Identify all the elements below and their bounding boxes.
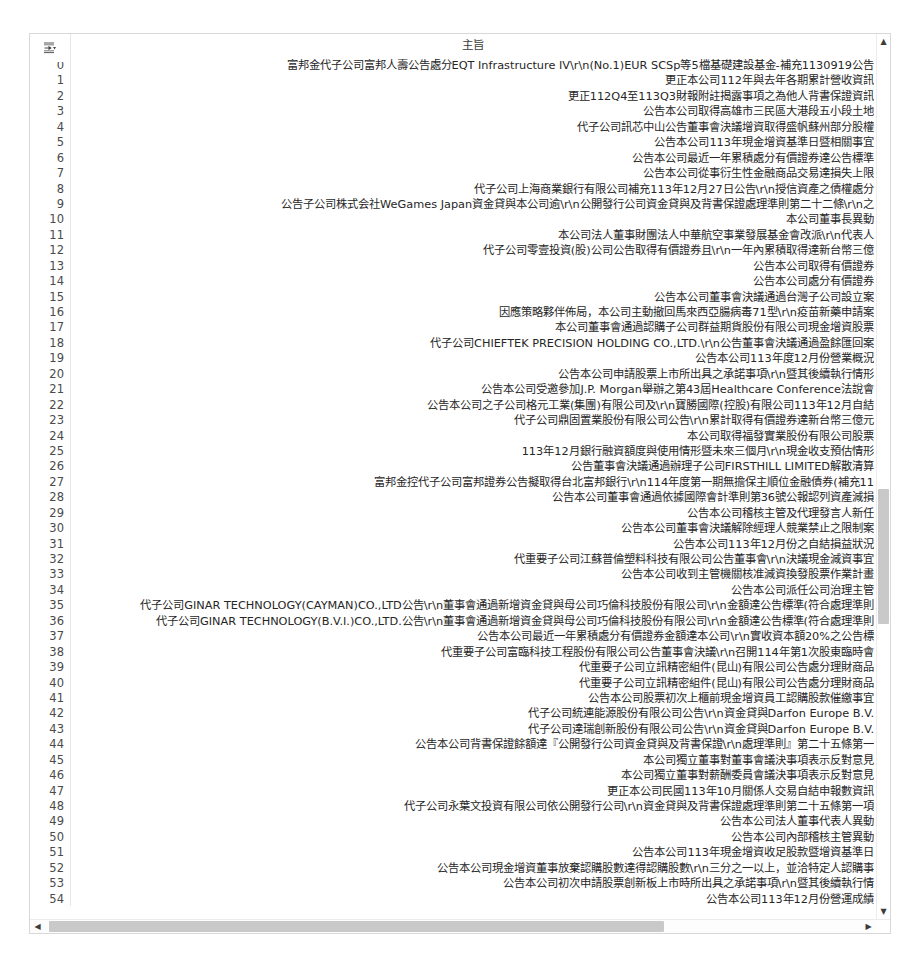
cell-subject[interactable]: 公告本公司申請股票上市所出具之承諾事項\r\n暨其後續執行情形 bbox=[74, 367, 874, 382]
table-row[interactable]: 29公告本公司稽核主管及代理發言人新任 bbox=[30, 506, 876, 521]
table-row[interactable]: 33公告本公司收到主管機關核准減資換發股票作業計畫 bbox=[30, 567, 876, 582]
cell-subject[interactable]: 公告董事會決議通過辦理子公司FIRSTHILL LIMITED解散清算 bbox=[74, 459, 874, 474]
table-row[interactable]: 25113年12月銀行融資額度與使用情形暨未來三個月\r\n現金收支預估情形 bbox=[30, 444, 876, 459]
scroll-down-arrow-icon[interactable]: ▼ bbox=[877, 905, 890, 918]
table-row[interactable]: 22公告本公司之子公司格元工業(集團)有限公司及\r\n寶勝國際(控股)有限公司… bbox=[30, 398, 876, 413]
cell-subject[interactable]: 公告本公司派任公司治理主管 bbox=[74, 583, 874, 598]
table-row[interactable]: 52公告本公司現金增資董事放棄認購股數達得認購股數\r\n三分之一以上，並洽特定… bbox=[30, 861, 876, 876]
table-row[interactable]: 24本公司取得福發實業股份有限公司股票 bbox=[30, 429, 876, 444]
cell-subject[interactable]: 代子公司訊芯中山公告董事會決議增資取得盛帆蘇州部分股權 bbox=[74, 120, 874, 135]
table-row[interactable]: 3公告本公司取得高雄市三民區大港段五小段土地 bbox=[30, 104, 876, 119]
table-row[interactable]: 7公告本公司從事衍生性金融商品交易達損失上限 bbox=[30, 166, 876, 181]
table-row[interactable]: 21公告本公司受邀參加J.P. Morgan舉辦之第43屆Healthcare … bbox=[30, 382, 876, 397]
cell-subject[interactable]: 本公司董事會通過認購子公司群益期貨股份有限公司現金增資股票 bbox=[74, 320, 874, 335]
table-row[interactable]: 19公告本公司113年度12月份營業概況 bbox=[30, 351, 876, 366]
table-row[interactable]: 54公告本公司113年12月份營運成績 bbox=[30, 892, 876, 907]
cell-subject[interactable]: 公告本公司初次申請股票創新板上市時所出具之承諾事項\r\n暨其後續執行情 bbox=[74, 876, 874, 891]
cell-subject[interactable]: 更正本公司112年與去年各期累計營收資訊 bbox=[74, 73, 874, 88]
table-row[interactable]: 9公告子公司株式会社WeGames Japan資金貸與本公司逾\r\n公開發行公… bbox=[30, 197, 876, 212]
cell-subject[interactable]: 代重要子公司富臨科技工程股份有限公司公告董事會決議\r\n召開114年第1次股東… bbox=[74, 645, 874, 660]
table-row[interactable]: 41公告本公司股票初次上櫃前現金增資員工認購股款催繳事宜 bbox=[30, 691, 876, 706]
cell-subject[interactable]: 公告本公司董事會決議解除經理人競業禁止之限制案 bbox=[74, 521, 874, 536]
cell-subject[interactable]: 代子公司統連能源股份有限公司公告\r\n資金貸與Darfon Europe B.… bbox=[74, 706, 874, 721]
cell-subject[interactable]: 公告本公司從事衍生性金融商品交易達損失上限 bbox=[74, 166, 874, 181]
table-row[interactable]: 46本公司獨立董事對薪酬委員會議決事項表示反對意見 bbox=[30, 768, 876, 783]
cell-subject[interactable]: 公告本公司之子公司格元工業(集團)有限公司及\r\n寶勝國際(控股)有限公司11… bbox=[74, 398, 874, 413]
scroll-up-arrow-icon[interactable]: ▲ bbox=[877, 35, 890, 48]
cell-subject[interactable]: 代重要子公司立訊精密組件(昆山)有限公司公告處分理財商品 bbox=[74, 676, 874, 691]
cell-subject[interactable]: 公告本公司現金增資董事放棄認購股數達得認購股數\r\n三分之一以上，並洽特定人認… bbox=[74, 861, 874, 876]
cell-subject[interactable]: 更正112Q4至113Q3財報附註揭露事項之為他人背書保證資訊 bbox=[74, 89, 874, 104]
table-row[interactable]: 6公告本公司最近一年累積處分有價證券達公告標準 bbox=[30, 151, 876, 166]
table-row[interactable]: 14公告本公司處分有價證券 bbox=[30, 274, 876, 289]
table-row[interactable]: 23代子公司鼎固置業股份有限公司公告\r\n累計取得有價證券達新台幣三億元 bbox=[30, 413, 876, 428]
cell-subject[interactable]: 113年12月銀行融資額度與使用情形暨未來三個月\r\n現金收支預估情形 bbox=[74, 444, 874, 459]
cell-subject[interactable]: 公告本公司董事會通過依據國際會計準則第36號公報認列資產減損 bbox=[74, 490, 874, 505]
cell-subject[interactable]: 公告子公司株式会社WeGames Japan資金貸與本公司逾\r\n公開發行公司… bbox=[74, 197, 874, 212]
table-row[interactable]: 43代子公司達瑞創新股份有限公司公告\r\n資金貸與Darfon Europe … bbox=[30, 722, 876, 737]
table-row[interactable]: 36代子公司GINAR TECHNOLOGY(B.V.I.)CO.,LTD.公告… bbox=[30, 614, 876, 629]
table-row[interactable]: 50公告本公司內部稽核主管異動 bbox=[30, 830, 876, 845]
table-row[interactable]: 47更正本公司民國113年10月關係人交易自結申報數資訊 bbox=[30, 784, 876, 799]
cell-subject[interactable]: 代重要子公司立訊精密組件(昆山)有限公司公告處分理財商品 bbox=[74, 660, 874, 675]
table-row[interactable]: 5公告本公司113年現金增資基準日暨相關事宜 bbox=[30, 135, 876, 150]
table-row[interactable]: 0富邦金代子公司富邦人壽公告處分EQT Infrastructure IV\r\… bbox=[30, 58, 876, 73]
cell-subject[interactable]: 公告本公司113年現金增資收足股款暨增資基準日 bbox=[74, 845, 874, 860]
cell-subject[interactable]: 公告本公司最近一年累積處分有價證券達公告標準 bbox=[74, 151, 874, 166]
table-row[interactable]: 31公告本公司113年12月份之自結損益狀況 bbox=[30, 537, 876, 552]
cell-subject[interactable]: 代子公司達瑞創新股份有限公司公告\r\n資金貸與Darfon Europe B.… bbox=[74, 722, 874, 737]
scroll-right-arrow-icon[interactable]: ▶ bbox=[862, 920, 875, 933]
column-header-subject[interactable]: 主旨 bbox=[70, 36, 876, 52]
cell-subject[interactable]: 代子公司鼎固置業股份有限公司公告\r\n累計取得有價證券達新台幣三億元 bbox=[74, 413, 874, 428]
table-row[interactable]: 30公告本公司董事會決議解除經理人競業禁止之限制案 bbox=[30, 521, 876, 536]
cell-subject[interactable]: 富邦金控代子公司富邦證券公告擬取得台北富邦銀行\r\n114年度第一期無擔保主順… bbox=[74, 475, 874, 490]
cell-subject[interactable]: 本公司董事長異動 bbox=[74, 212, 874, 227]
table-row[interactable]: 39代重要子公司立訊精密組件(昆山)有限公司公告處分理財商品 bbox=[30, 660, 876, 675]
table-row[interactable]: 16因應策略夥伴佈局，本公司主動撤回馬來西亞腸病毒71型\r\n疫苗新藥申請案 bbox=[30, 305, 876, 320]
expand-index-icon[interactable] bbox=[30, 34, 70, 62]
cell-subject[interactable]: 富邦金代子公司富邦人壽公告處分EQT Infrastructure IV\r\n… bbox=[74, 58, 874, 73]
table-row[interactable]: 44公告本公司背書保證餘額達『公開發行公司資金貸與及背書保證\r\n處理準則』第… bbox=[30, 737, 876, 752]
table-row[interactable]: 26公告董事會決議通過辦理子公司FIRSTHILL LIMITED解散清算 bbox=[30, 459, 876, 474]
table-row[interactable]: 1更正本公司112年與去年各期累計營收資訊 bbox=[30, 73, 876, 88]
table-row[interactable]: 38代重要子公司富臨科技工程股份有限公司公告董事會決議\r\n召開114年第1次… bbox=[30, 645, 876, 660]
table-row[interactable]: 48代子公司永葉文投資有限公司依公開發行公司\r\n資金貸與及背書保證處理準則第… bbox=[30, 799, 876, 814]
cell-subject[interactable]: 公告本公司處分有價證券 bbox=[74, 274, 874, 289]
cell-subject[interactable]: 代子公司CHIEFTEK PRECISION HOLDING CO.,LTD.\… bbox=[74, 336, 874, 351]
cell-subject[interactable]: 公告本公司收到主管機關核准減資換發股票作業計畫 bbox=[74, 567, 874, 582]
vertical-scrollbar[interactable]: ▲ ▼ bbox=[876, 34, 890, 919]
table-row[interactable]: 8代子公司上海商業銀行有限公司補充113年12月27日公告\r\n授信資產之債權… bbox=[30, 182, 876, 197]
cell-subject[interactable]: 因應策略夥伴佈局，本公司主動撤回馬來西亞腸病毒71型\r\n疫苗新藥申請案 bbox=[74, 305, 874, 320]
table-row[interactable]: 18代子公司CHIEFTEK PRECISION HOLDING CO.,LTD… bbox=[30, 336, 876, 351]
table-row[interactable]: 40代重要子公司立訊精密組件(昆山)有限公司公告處分理財商品 bbox=[30, 676, 876, 691]
table-row[interactable]: 53公告本公司初次申請股票創新板上市時所出具之承諾事項\r\n暨其後續執行情 bbox=[30, 876, 876, 891]
cell-subject[interactable]: 公告本公司背書保證餘額達『公開發行公司資金貸與及背書保證\r\n處理準則』第二十… bbox=[74, 737, 874, 752]
vertical-scrollbar-thumb[interactable] bbox=[878, 489, 889, 624]
table-row[interactable]: 2更正112Q4至113Q3財報附註揭露事項之為他人背書保證資訊 bbox=[30, 89, 876, 104]
cell-subject[interactable]: 更正本公司民國113年10月關係人交易自結申報數資訊 bbox=[74, 784, 874, 799]
cell-subject[interactable]: 本公司法人董事財團法人中華航空事業發展基金會改派\r\n代表人 bbox=[74, 228, 874, 243]
table-row[interactable]: 42代子公司統連能源股份有限公司公告\r\n資金貸與Darfon Europe … bbox=[30, 706, 876, 721]
table-row[interactable]: 34公告本公司派任公司治理主管 bbox=[30, 583, 876, 598]
table-row[interactable]: 32代重要子公司江蘇普倫塑料科技有限公司公告董事會\r\n決議現金減資事宜 bbox=[30, 552, 876, 567]
table-row[interactable]: 45本公司獨立董事對董事會議決事項表示反對意見 bbox=[30, 753, 876, 768]
cell-subject[interactable]: 公告本公司113年12月份營運成績 bbox=[74, 892, 874, 907]
table-row[interactable]: 11本公司法人董事財團法人中華航空事業發展基金會改派\r\n代表人 bbox=[30, 228, 876, 243]
cell-subject[interactable]: 代重要子公司江蘇普倫塑料科技有限公司公告董事會\r\n決議現金減資事宜 bbox=[74, 552, 874, 567]
table-row[interactable]: 37公告本公司最近一年累積處分有價證券金額達本公司\r\n實收資本額20%之公告… bbox=[30, 629, 876, 644]
table-row[interactable]: 17本公司董事會通過認購子公司群益期貨股份有限公司現金增資股票 bbox=[30, 320, 876, 335]
cell-subject[interactable]: 公告本公司股票初次上櫃前現金增資員工認購股款催繳事宜 bbox=[74, 691, 874, 706]
cell-subject[interactable]: 代子公司GINAR TECHNOLOGY(B.V.I.)CO.,LTD.公告\r… bbox=[74, 614, 874, 629]
table-row[interactable]: 15公告本公司董事會決議通過台灣子公司設立案 bbox=[30, 290, 876, 305]
table-row[interactable]: 4代子公司訊芯中山公告董事會決議增資取得盛帆蘇州部分股權 bbox=[30, 120, 876, 135]
cell-subject[interactable]: 公告本公司113年現金增資基準日暨相關事宜 bbox=[74, 135, 874, 150]
cell-subject[interactable]: 本公司取得福發實業股份有限公司股票 bbox=[74, 429, 874, 444]
table-row[interactable]: 28公告本公司董事會通過依據國際會計準則第36號公報認列資產減損 bbox=[30, 490, 876, 505]
table-row[interactable]: 10本公司董事長異動 bbox=[30, 212, 876, 227]
cell-subject[interactable]: 公告本公司取得高雄市三民區大港段五小段土地 bbox=[74, 104, 874, 119]
table-row[interactable]: 35代子公司GINAR TECHNOLOGY(CAYMAN)CO.,LTD公告\… bbox=[30, 598, 876, 613]
table-row[interactable]: 51公告本公司113年現金增資收足股款暨增資基準日 bbox=[30, 845, 876, 860]
cell-subject[interactable]: 公告本公司稽核主管及代理發言人新任 bbox=[74, 506, 874, 521]
cell-subject[interactable]: 代子公司GINAR TECHNOLOGY(CAYMAN)CO.,LTD公告\r\… bbox=[74, 598, 874, 613]
cell-subject[interactable]: 公告本公司董事會決議通過台灣子公司設立案 bbox=[74, 290, 874, 305]
